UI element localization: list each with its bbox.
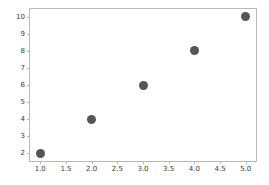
y-axis-tick <box>27 153 30 154</box>
y-axis-tick <box>27 68 30 69</box>
x-axis-tick <box>117 161 118 164</box>
x-axis-tick <box>246 161 247 164</box>
x-axis-tick <box>92 161 93 164</box>
x-axis-tick-label: 2.5 <box>112 166 123 173</box>
plot-axes-frame: 23456789101.01.52.02.53.03.54.04.55.0 <box>29 8 257 162</box>
x-axis-tick-label: 4.0 <box>189 166 200 173</box>
x-axis-tick <box>220 161 221 164</box>
y-axis-tick-label: 5 <box>21 99 25 106</box>
x-axis-tick-label: 3.0 <box>137 166 148 173</box>
y-axis-tick-label: 2 <box>21 150 25 157</box>
x-axis-tick <box>143 161 144 164</box>
y-axis-tick-label: 3 <box>21 133 25 140</box>
data-point-marker <box>241 12 250 21</box>
data-point-marker <box>36 149 45 158</box>
y-axis-tick-label: 10 <box>16 13 25 20</box>
y-axis-tick-label: 7 <box>21 64 25 71</box>
y-axis-tick-label: 6 <box>21 82 25 89</box>
data-point-marker <box>190 46 199 55</box>
x-axis-tick <box>66 161 67 164</box>
x-axis-tick-label: 4.5 <box>214 166 225 173</box>
y-axis-tick <box>27 17 30 18</box>
plot-area: 23456789101.01.52.02.53.03.54.04.55.0 <box>30 9 256 161</box>
y-axis-tick <box>27 85 30 86</box>
x-axis-tick <box>169 161 170 164</box>
x-axis-tick-label: 2.0 <box>86 166 97 173</box>
x-axis-tick-label: 1.5 <box>60 166 71 173</box>
x-axis-tick <box>194 161 195 164</box>
x-axis-tick-label: 3.5 <box>163 166 174 173</box>
y-axis-tick <box>27 51 30 52</box>
y-axis-tick <box>27 34 30 35</box>
x-axis-tick <box>40 161 41 164</box>
y-axis-tick-label: 4 <box>21 116 25 123</box>
x-axis-tick-label: 5.0 <box>240 166 251 173</box>
y-axis-tick <box>27 136 30 137</box>
y-axis-tick <box>27 119 30 120</box>
scatter-chart-figure: 23456789101.01.52.02.53.03.54.04.55.0 <box>0 0 269 185</box>
data-point-marker <box>87 115 96 124</box>
x-axis-tick-label: 1.0 <box>35 166 46 173</box>
y-axis-tick-label: 8 <box>21 47 25 54</box>
y-axis-tick <box>27 102 30 103</box>
y-axis-tick-label: 9 <box>21 30 25 37</box>
data-point-marker <box>139 81 148 90</box>
